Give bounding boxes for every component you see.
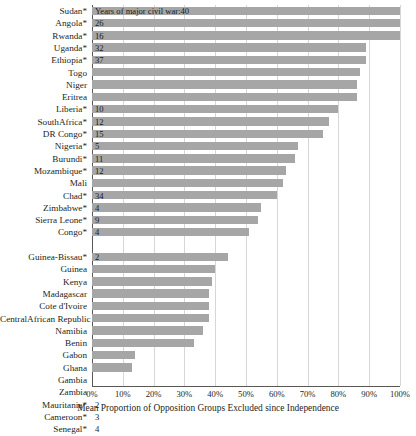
category-label: Chad* [0,190,87,202]
category-label: Congo* [0,226,87,238]
gridline-100 [400,5,401,386]
bar [92,203,261,211]
civil-war-years-value: 32 [95,42,104,54]
category-label: Sierra Leone* [0,214,87,226]
bar-row: Sierra Leone*9 [92,214,400,226]
bar [92,154,295,162]
category-label: Zambia [0,386,87,398]
civil-war-years-value: 4 [95,423,99,435]
bar [92,19,400,27]
x-tick-label: 60% [269,389,285,399]
bar [92,326,203,334]
bar [92,93,357,101]
bar [92,166,286,174]
bar-row: Gambia [92,374,400,386]
bar-row: Mali [92,177,400,189]
category-label: Kenya [0,276,87,288]
civil-war-years-value: 10 [95,103,104,115]
civil-war-years-value: 12 [95,116,104,128]
category-label: Eritrea [0,91,87,103]
bar [92,302,209,310]
bar-row: Niger [92,79,400,91]
civil-war-years-value: 15 [95,128,104,140]
category-label: SouthAfrica* [0,116,87,128]
bar-row: Sudan*Years of major civil war:40 [92,5,400,17]
civil-war-years-value: 16 [95,30,104,42]
bar [92,228,249,236]
bar [92,265,215,273]
x-axis-label: Mean Proportion of Opposition Groups Exc… [0,403,416,413]
civil-war-annotation: Years of major civil war:40 [95,5,189,17]
category-label: Uganda* [0,42,87,54]
bar-row: Ghana [92,362,400,374]
bar [92,179,283,187]
category-label: CentralAfrican Republic [0,313,87,325]
bar-row: Benin [92,337,400,349]
civil-war-years-value: 34 [95,190,104,202]
bar-row: Cote d'Ivoire [92,300,400,312]
bar-row: SouthAfrica*12 [92,116,400,128]
bar-row: Guinea [92,263,400,275]
category-label: Madagascar [0,288,87,300]
bar-row: Guinea-Bissau*2 [92,251,400,263]
civil-war-years-value: 4 [95,226,99,238]
civil-war-years-value: 2 [95,251,99,263]
x-tick-label: 0% [86,389,97,399]
category-label: Mali [0,177,87,189]
bar-row: Gabon [92,349,400,361]
category-label: Togo [0,67,87,79]
bar [92,277,212,285]
bar-row: Nigeria*5 [92,140,400,152]
category-label: Benin [0,337,87,349]
bar [92,253,228,261]
bar [92,289,209,297]
bar-row: Kenya [92,276,400,288]
x-tick-label: 80% [331,389,347,399]
civil-war-years-value: 9 [95,214,99,226]
bar [92,31,400,39]
bar-row: Togo [92,67,400,79]
category-label: Liberia* [0,103,87,115]
bar [92,105,338,113]
bar [92,43,366,51]
category-label: Guinea [0,263,87,275]
x-tick-label: 90% [361,389,377,399]
x-tick-label: 50% [238,389,254,399]
bar [92,216,258,224]
bar [92,351,135,359]
x-tick-label: 20% [146,389,162,399]
bar [92,191,277,199]
bar [92,117,329,125]
bar-row: CentralAfrican Republic [92,313,400,325]
bar-row: Chad*34 [92,190,400,202]
x-tick-label: 10% [115,389,131,399]
category-label: Gabon [0,349,87,361]
civil-war-years-value: 12 [95,165,104,177]
bar-row: Ethiopia*37 [92,54,400,66]
bar [92,363,132,371]
category-label: Nigeria* [0,140,87,152]
bar-row: Angola*26 [92,17,400,29]
plot-area: Sudan*Years of major civil war:40Angola*… [92,5,400,386]
civil-war-years-value: 26 [95,17,104,29]
category-label [0,239,87,251]
bar-row: DR Congo*15 [92,128,400,140]
x-tick-label: 30% [177,389,193,399]
bar [92,339,194,347]
category-label: Namibia [0,325,87,337]
civil-war-years-value: 4 [95,202,99,214]
bar-row: Mozambique*12 [92,165,400,177]
category-label: Niger [0,79,87,91]
bar [92,142,298,150]
category-label: Ethiopia* [0,54,87,66]
x-tick-label: 100% [390,389,410,399]
category-label: Cote d'Ivoire [0,300,87,312]
bar-row: Eritrea [92,91,400,103]
bar [92,56,366,64]
bar-row: Madagascar [92,288,400,300]
bar [92,80,357,88]
bar-row: Senegal*4 [92,423,400,435]
category-label: Ghana [0,362,87,374]
bar-row: Burundi*11 [92,153,400,165]
